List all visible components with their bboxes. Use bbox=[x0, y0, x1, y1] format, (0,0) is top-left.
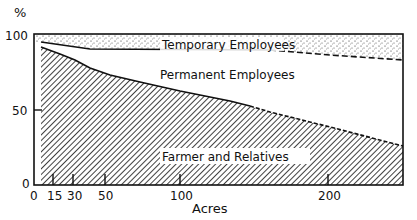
farmer-relatives-label: Farmer and Relatives bbox=[162, 150, 289, 164]
x-tick-label-200: 200 bbox=[318, 189, 341, 203]
y-tick-label-100: 100 bbox=[5, 29, 28, 43]
permanent-employees-label: Permanent Employees bbox=[160, 68, 295, 82]
y-unit-label: % bbox=[14, 5, 26, 20]
y-tick-label-0: 0 bbox=[22, 177, 30, 191]
x-tick-label-50: 50 bbox=[98, 189, 113, 203]
y-tick-label-50: 50 bbox=[12, 104, 27, 118]
x-tick-label-30: 30 bbox=[67, 189, 82, 203]
temporary-employees-label: Temporary Employees bbox=[161, 38, 295, 52]
x-axis-title: Acres bbox=[192, 201, 228, 216]
x-tick-label-0: 0 bbox=[30, 189, 38, 203]
stacked-area-chart: Temporary Employees Permanent Employees … bbox=[0, 0, 417, 220]
x-tick-label-15: 15 bbox=[47, 189, 62, 203]
x-tick-label-100: 100 bbox=[170, 189, 193, 203]
